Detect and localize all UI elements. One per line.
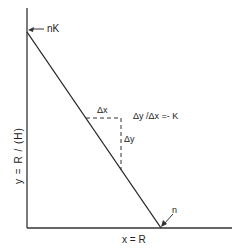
x-axis-label: x = R [122, 235, 146, 245]
label-slope: Δy /Δx =- K [133, 112, 178, 121]
label-nk: nK [47, 24, 59, 34]
y-axis-label: y = R / (H) [13, 116, 24, 196]
label-n: n [172, 206, 177, 215]
regression-line [27, 32, 161, 228]
label-delta-x: Δx [97, 106, 108, 115]
label-delta-y: Δy [124, 135, 135, 144]
arrow-n-icon [161, 214, 173, 227]
arrow-nk-icon [28, 27, 44, 32]
diagram-canvas [0, 0, 239, 251]
